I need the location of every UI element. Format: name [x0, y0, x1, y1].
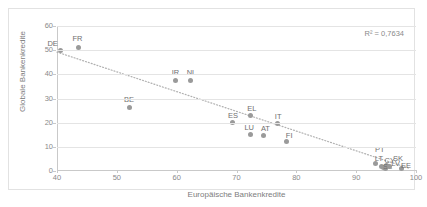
y-tick-label: 20: [27, 119, 53, 127]
gridline-horizontal: [57, 50, 416, 51]
data-point-label: IT: [275, 113, 282, 121]
data-point-label: DE: [47, 40, 57, 48]
data-point-label: NL: [187, 69, 197, 77]
data-point[interactable]: [261, 133, 266, 138]
x-tick-label: 80: [283, 173, 309, 182]
data-point-label: FR: [73, 35, 83, 43]
data-point[interactable]: [76, 45, 81, 50]
x-tick-label: 60: [164, 173, 190, 182]
x-tick-mark: [416, 170, 417, 173]
x-tick-label: 40: [44, 173, 70, 182]
x-axis-title: Europäische Bankenkredite: [57, 190, 416, 199]
gridline-horizontal: [57, 26, 416, 27]
y-axis-title: Globale Bankenkredite: [18, 12, 27, 132]
chart-frame: 0102030405060 405060708090100 Globale Ba…: [8, 8, 415, 190]
data-point[interactable]: [284, 139, 289, 144]
y-tick-label: 40: [27, 70, 53, 78]
x-tick-label: 70: [224, 173, 250, 182]
x-tick-label: 100: [403, 173, 427, 182]
data-point-label: LU: [244, 124, 254, 132]
data-point[interactable]: [248, 132, 253, 137]
y-tick-mark: [53, 147, 56, 148]
x-tick-label: 90: [343, 173, 369, 182]
data-point-label: IR: [172, 69, 180, 77]
gridline-horizontal: [57, 147, 416, 148]
x-axis-tick-labels: 405060708090100: [57, 173, 416, 187]
gridline-horizontal: [57, 99, 416, 100]
y-tick-label: 60: [27, 22, 53, 30]
y-axis-tick-labels: 0102030405060: [23, 26, 53, 171]
data-point-label: ES: [228, 112, 238, 120]
y-tick-label: 10: [27, 143, 53, 151]
y-tick-mark: [53, 50, 56, 51]
data-point-label: EE: [401, 162, 411, 170]
x-tick-label: 50: [104, 173, 130, 182]
data-point-label: FI: [286, 132, 293, 140]
data-point-label: EL: [247, 105, 256, 113]
y-tick-mark: [53, 123, 56, 124]
y-tick-mark: [53, 171, 56, 172]
y-tick-mark: [53, 26, 56, 27]
data-point-label: AT: [261, 125, 270, 133]
gridline-horizontal: [57, 123, 416, 124]
y-tick-mark: [53, 99, 56, 100]
gridline-horizontal: [57, 74, 416, 75]
y-tick-mark: [53, 74, 56, 75]
y-tick-label: 30: [27, 95, 53, 103]
data-point-label: LT: [375, 155, 383, 163]
data-point-label: BE: [124, 96, 134, 104]
scatter-chart: 0102030405060 405060708090100 Globale Ba…: [0, 0, 427, 207]
